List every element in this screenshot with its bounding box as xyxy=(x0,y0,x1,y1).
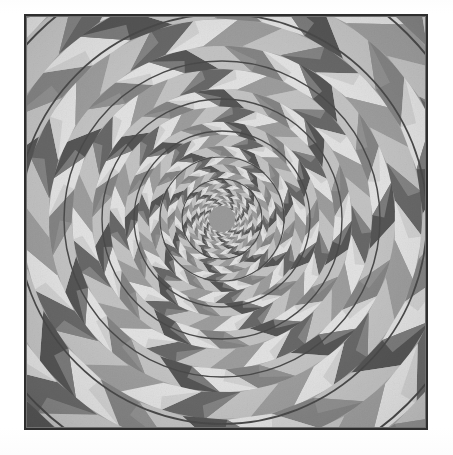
illusion-figure xyxy=(24,14,428,430)
illusion-svg xyxy=(24,14,428,430)
center-disc xyxy=(209,206,235,232)
page-canvas xyxy=(0,0,453,455)
